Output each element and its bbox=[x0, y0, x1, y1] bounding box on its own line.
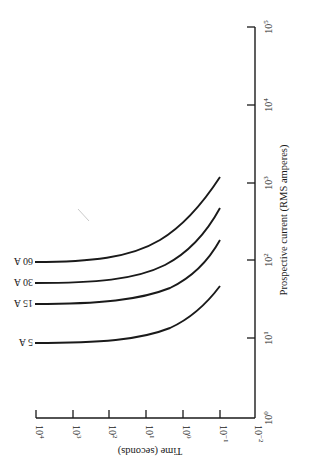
curve-60a bbox=[35, 177, 220, 262]
current-axis-ticks bbox=[247, 27, 255, 338]
label-60a: 60 A bbox=[13, 256, 33, 267]
current-tick-1e3: 103 bbox=[262, 176, 274, 190]
curve-15a bbox=[35, 240, 220, 304]
time-tick-1e3: 103 bbox=[71, 425, 83, 439]
current-tick-1e2: 102 bbox=[262, 253, 274, 267]
time-current-chart: 105 104 103 102 101 100 Prospective curr… bbox=[0, 0, 313, 466]
current-tick-1e1: 101 bbox=[262, 331, 274, 345]
label-15a: 15 A bbox=[13, 298, 33, 309]
current-tick-1e4: 104 bbox=[262, 98, 274, 112]
current-tick-1e0: 100 bbox=[262, 411, 274, 425]
time-axis-ticks bbox=[36, 410, 220, 418]
time-tick-1e1: 101 bbox=[144, 425, 156, 439]
curve-labels: 60 A 30 A 15 A 5 A bbox=[13, 256, 33, 348]
time-tick-labels: 104 103 102 101 100 10−1 10−2 bbox=[34, 425, 265, 443]
curve-30a bbox=[35, 208, 220, 283]
stray-mark bbox=[78, 209, 89, 221]
time-tick-1e-1: 10−1 bbox=[218, 425, 230, 443]
time-tick-1e4: 104 bbox=[34, 425, 46, 439]
time-tick-1e-2: 10−2 bbox=[253, 425, 265, 443]
current-tick-1e5: 105 bbox=[262, 20, 274, 34]
curve-5a bbox=[35, 286, 220, 343]
current-axis-title: Prospective current (RMS amperes) bbox=[278, 144, 290, 295]
time-tick-1e0: 100 bbox=[181, 425, 193, 439]
time-tick-1e2: 102 bbox=[107, 425, 119, 439]
label-30a: 30 A bbox=[13, 277, 33, 288]
time-axis-title: Time (seconds) bbox=[117, 445, 182, 457]
label-5a: 5 A bbox=[18, 337, 33, 348]
current-tick-labels: 105 104 103 102 101 100 bbox=[262, 20, 274, 425]
fuse-curves bbox=[35, 177, 220, 343]
